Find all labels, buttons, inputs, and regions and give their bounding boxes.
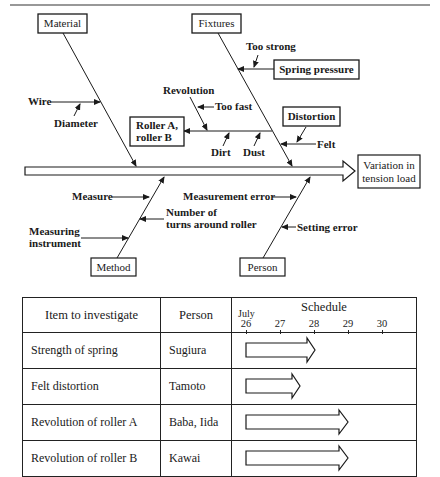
effect-label-line1: Variation in: [363, 159, 415, 171]
category-person-label: Person: [248, 261, 278, 273]
category-method-label: Method: [96, 261, 131, 273]
row-schedule-bar: [232, 369, 417, 405]
row-person: Sugiura: [161, 333, 232, 369]
cause-measure-label: Measure: [72, 190, 113, 202]
table-row: Felt distortion Tamoto: [23, 369, 417, 405]
effect-label-line2: tension load: [362, 172, 416, 184]
row-person: Baba, Iida: [161, 405, 232, 441]
row-item: Felt distortion: [23, 369, 161, 405]
cause-setting-error: Setting error: [282, 221, 358, 233]
schedule-day: 26: [241, 318, 252, 329]
schedule-day: 29: [343, 318, 354, 329]
cause-wire: Wire Diameter: [28, 95, 100, 129]
row-schedule-bar: [232, 333, 417, 369]
cause-diameter-label: Diameter: [54, 117, 98, 129]
cause-roller-label-line1: Roller A,: [136, 119, 178, 131]
cause-number-of-turns: Number of turns around roller: [140, 206, 257, 230]
row-person: Kawai: [161, 441, 232, 477]
table-row: Revolution of roller B Kawai: [23, 441, 417, 477]
schedule-arrow-icon: [232, 333, 417, 368]
cause-dirt-label: Dirt: [211, 146, 231, 158]
category-fixtures-label: Fixtures: [198, 17, 234, 29]
schedule-day: 28: [309, 318, 320, 329]
schedule-arrow-icon: [232, 441, 417, 476]
cause-measuring-instrument-line1: Measuring: [29, 225, 80, 237]
row-item: Strength of spring: [23, 333, 161, 369]
header-person: Person: [161, 298, 232, 333]
schedule-arrow-icon: [232, 405, 417, 440]
schedule-day: 30: [377, 318, 388, 329]
cause-revolution-label: Revolution: [163, 84, 214, 96]
cause-too-strong-label: Too strong: [246, 40, 296, 52]
cause-wire-label: Wire: [28, 95, 52, 107]
cause-number-of-turns-line2: turns around roller: [166, 218, 257, 230]
cause-roller: Revolution Too fast Roller A, roller B D…: [130, 84, 272, 158]
cause-felt-label: Felt: [317, 138, 336, 150]
cause-roller-label-line2: roller B: [136, 131, 173, 143]
header-schedule: Schedule July 26 27 28 29 30: [232, 298, 417, 333]
cause-measure: Measure: [72, 190, 149, 202]
schedule-arrow-icon: [232, 369, 417, 404]
cause-measuring-instrument-line2: instrument: [29, 237, 81, 249]
schedule-day: 27: [275, 318, 286, 329]
cause-setting-error-label: Setting error: [297, 221, 358, 233]
row-schedule-bar: [232, 405, 417, 441]
table-header-row: Item to investigate Person Schedule July…: [23, 298, 417, 333]
row-item: Revolution of roller A: [23, 405, 161, 441]
schedule-title: Schedule: [232, 300, 416, 315]
category-material-label: Material: [44, 17, 81, 29]
cause-too-fast-label: Too fast: [215, 100, 253, 112]
effect-box: Variation in tension load: [358, 155, 420, 188]
main-spine-arrow: [25, 161, 355, 181]
row-person: Tamoto: [161, 369, 232, 405]
cause-spring-pressure-label: Spring pressure: [279, 63, 354, 75]
cause-distortion-label: Distortion: [288, 110, 336, 122]
category-material: Material: [38, 14, 136, 166]
table-row: Revolution of roller A Baba, Iida: [23, 405, 417, 441]
fishbone-diagram: Variation in tension load Material Wire …: [0, 0, 440, 290]
cause-measurement-error: Measurement error: [183, 190, 296, 202]
cause-measuring-instrument: Measuring instrument: [29, 225, 128, 249]
cause-distortion: Distortion Felt: [281, 107, 340, 150]
investigation-schedule-table: Item to investigate Person Schedule July…: [22, 297, 417, 477]
cause-measurement-error-label: Measurement error: [183, 190, 275, 202]
header-item: Item to investigate: [23, 298, 161, 333]
row-schedule-bar: [232, 441, 417, 477]
row-item: Revolution of roller B: [23, 441, 161, 477]
cause-dust-label: Dust: [243, 146, 265, 158]
cause-spring-pressure: Too strong Spring pressure: [238, 40, 359, 79]
table-row: Strength of spring Sugiura: [23, 333, 417, 369]
cause-number-of-turns-line1: Number of: [166, 206, 217, 218]
